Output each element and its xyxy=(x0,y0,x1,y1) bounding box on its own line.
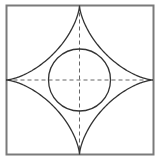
diagram-canvas xyxy=(0,0,156,157)
astroid-diagram xyxy=(0,0,156,157)
